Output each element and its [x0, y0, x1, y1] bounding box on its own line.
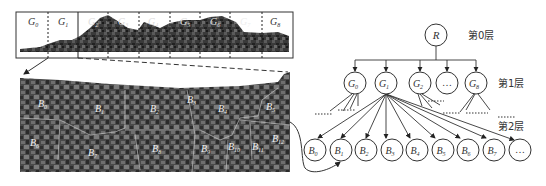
svg-text:…: … [442, 77, 452, 88]
layer-label-0: 第0层 [468, 29, 494, 41]
node-g8: G8 [465, 72, 487, 94]
node-b4: B4 [406, 139, 428, 161]
node-b2: B2 [355, 139, 377, 161]
node-b7: B7 [483, 139, 505, 161]
node-b-ellipsis: … [509, 139, 531, 161]
node-g2: G2 [409, 72, 431, 94]
node-g1: G1 [375, 72, 397, 94]
node-g0: G0 [344, 72, 366, 94]
zoom-leader-left [24, 58, 48, 74]
node-g-ellipsis: … [436, 72, 458, 94]
node-b5: B5 [432, 139, 454, 161]
profile-strip: G0 G1 G2 G3 G4 G5 G6 G7 G8 [16, 12, 293, 58]
diagram-canvas: G0 G1 G2 G3 G4 G5 G6 G7 G8 B0 B1 [0, 0, 546, 186]
svg-text:R: R [432, 29, 440, 41]
layer-label-1: 第1层 [498, 77, 524, 89]
zoom-leader-right [78, 58, 288, 72]
node-b3: B3 [381, 139, 403, 161]
detail-photo: B0 B1 B2 B3 B4 B5 B6 B7 B8 B9 B10 B11 B1… [20, 72, 290, 172]
node-root: R [425, 24, 447, 46]
layer-label-2: 第2层 [498, 120, 524, 132]
node-b6: B6 [457, 139, 479, 161]
svg-text:…: … [515, 144, 525, 155]
node-b0: B0 [304, 139, 326, 161]
node-b1: B1 [330, 139, 352, 161]
